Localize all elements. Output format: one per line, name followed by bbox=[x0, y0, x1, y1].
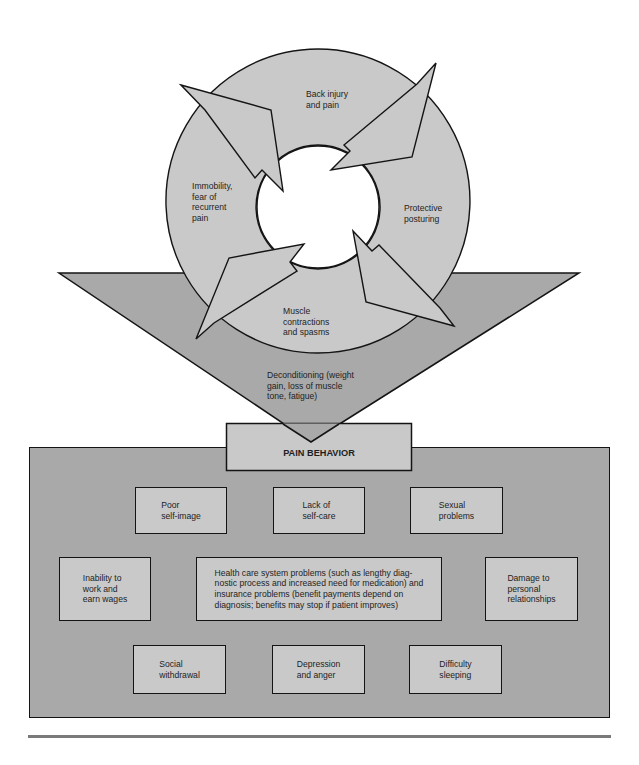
behavior-depression-anger: Depression and anger bbox=[272, 645, 365, 694]
stage-protective-posturing: Protective posturing bbox=[404, 203, 442, 224]
bottom-divider bbox=[28, 735, 611, 738]
behavior-sexual-problems: Sexual problems bbox=[410, 487, 503, 534]
pain-behavior-title-box bbox=[226, 423, 412, 471]
behavior-health-care-problems: Health care system problems (such as len… bbox=[196, 557, 442, 621]
behavior-poor-self-image: Poor self-image bbox=[135, 487, 227, 534]
behavior-inability-to-work: Inability to work and earn wages bbox=[59, 557, 151, 621]
deconditioning-label: Deconditioning (weight gain, loss of mus… bbox=[267, 370, 354, 402]
behavior-damage-relationships: Damage to personal relationships bbox=[485, 557, 578, 621]
behavior-lack-of-self-care: Lack of self-care bbox=[273, 487, 365, 534]
stage-immobility: Immobility, fear of recurrent pain bbox=[192, 181, 232, 223]
behavior-social-withdrawal: Social withdrawal bbox=[133, 645, 226, 694]
behavior-difficulty-sleeping: Difficulty sleeping bbox=[409, 645, 502, 694]
pain-behavior-title: PAIN BEHAVIOR bbox=[226, 448, 412, 459]
stage-back-injury: Back injury and pain bbox=[306, 89, 348, 110]
stage-muscle-contractions: Muscle contractions and spasms bbox=[283, 306, 329, 338]
